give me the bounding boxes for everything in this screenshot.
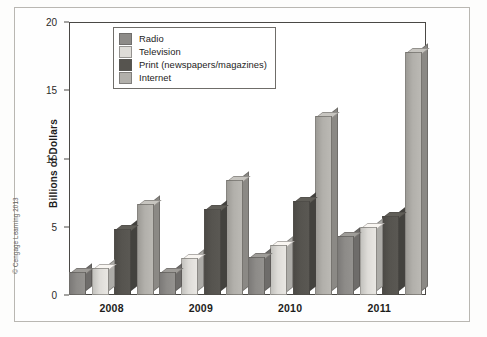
legend-item-television: Television — [119, 45, 267, 58]
legend-label: Internet — [139, 72, 171, 83]
bar-side — [422, 43, 428, 291]
bar-2009-internet — [226, 180, 243, 295]
bar-2008-internet — [137, 204, 154, 295]
bar-face — [226, 180, 243, 295]
bar-face — [248, 257, 265, 295]
bar-2009-television — [181, 258, 198, 295]
chart-legend: RadioTelevisionPrint (newspapers/magazin… — [113, 27, 276, 89]
y-axis-tick-label: 0 — [0, 290, 57, 301]
bar-2009-print — [204, 209, 221, 295]
bar-side — [399, 207, 405, 291]
bar-face — [114, 229, 131, 295]
bar-face — [204, 209, 221, 295]
bar-face — [315, 116, 332, 295]
bar-2008-print — [114, 229, 131, 295]
legend-swatch-icon — [119, 59, 132, 71]
legend-swatch-icon — [119, 33, 132, 45]
x-axis-tick-label-2010: 2010 — [248, 302, 333, 314]
bar-face — [159, 272, 176, 295]
bar-2010-radio — [248, 257, 265, 295]
bar-face — [382, 216, 399, 295]
bar-face — [405, 52, 422, 295]
bar-2010-print — [293, 201, 310, 295]
bar-face — [337, 236, 354, 295]
bar-face — [181, 258, 198, 295]
legend-label: Radio — [139, 33, 164, 44]
bar-side — [310, 192, 316, 291]
y-axis-tick-label: 15 — [0, 85, 57, 96]
y-axis-tick-label: 10 — [0, 153, 57, 164]
bar-2008-television — [92, 268, 109, 295]
bar-2011-television — [360, 227, 377, 295]
bar-2011-internet — [405, 52, 422, 295]
bar-side — [221, 200, 227, 291]
legend-swatch-icon — [119, 46, 132, 58]
figure-container: © Cengage Learning 2013 Billions of Doll… — [0, 0, 487, 337]
bar-face — [69, 272, 86, 295]
bar-face — [137, 204, 154, 295]
legend-label: Television — [139, 46, 181, 57]
x-axis-tick-label-2008: 2008 — [69, 302, 154, 314]
bar-face — [293, 201, 310, 295]
legend-item-internet: Internet — [119, 71, 267, 84]
bar-2009-radio — [159, 272, 176, 295]
bar-2011-radio — [337, 236, 354, 295]
bar-side — [131, 221, 137, 291]
bar-side — [377, 218, 383, 291]
x-axis-tick-label-2011: 2011 — [337, 302, 422, 314]
legend-swatch-icon — [119, 72, 132, 84]
bar-face — [360, 227, 377, 295]
legend-item-print: Print (newspapers/magazines) — [119, 58, 267, 71]
legend-item-radio: Radio — [119, 32, 267, 45]
legend-label: Print (newspapers/magazines) — [139, 59, 267, 70]
bar-group-2011 — [337, 22, 422, 295]
bar-2008-radio — [69, 272, 86, 295]
copyright-notice: © Cengage Learning 2013 — [12, 190, 19, 282]
bar-face — [92, 268, 109, 295]
bar-2011-print — [382, 216, 399, 295]
y-axis-tick-label: 20 — [0, 17, 57, 28]
bar-2010-internet — [315, 116, 332, 295]
x-axis-tick-label-2009: 2009 — [159, 302, 244, 314]
y-axis-tick-label: 5 — [0, 221, 57, 232]
